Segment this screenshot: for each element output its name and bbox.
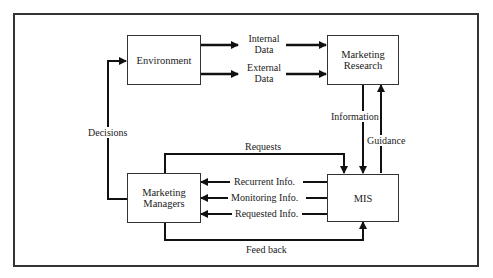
marketing-managers-label-line1: Marketing	[142, 187, 186, 198]
mis-label: MIS	[327, 174, 399, 222]
marketing-research-label: Marketing Research	[327, 35, 399, 85]
external-data-label-line1: External	[241, 62, 287, 73]
marketing-managers-label: Marketing Managers	[127, 173, 201, 223]
feed-back-label: Feed back	[245, 244, 288, 255]
guidance-label: Guidance	[366, 135, 406, 146]
marketing-research-label-line1: Marketing	[341, 49, 385, 60]
internal-data-label: Internal Data	[240, 33, 288, 55]
monitoring-info-label: Monitoring Info.	[230, 192, 299, 203]
requests-arrow	[165, 154, 344, 173]
recurrent-info-label: Recurrent Info.	[233, 176, 296, 187]
environment-label: Environment	[127, 35, 201, 85]
external-data-label: External Data	[240, 62, 288, 84]
external-data-label-line2: Data	[241, 73, 287, 84]
requested-info-label: Requested Info.	[234, 208, 299, 219]
marketing-managers-label-line2: Managers	[143, 198, 184, 209]
feed-back-arrow	[165, 222, 363, 240]
decisions-label: Decisions	[87, 127, 128, 138]
requests-label: Requests	[244, 141, 282, 152]
internal-data-label-line1: Internal	[241, 33, 287, 44]
marketing-research-label-line2: Research	[344, 60, 382, 71]
internal-data-label-line2: Data	[241, 44, 287, 55]
information-label: Information	[330, 111, 380, 122]
